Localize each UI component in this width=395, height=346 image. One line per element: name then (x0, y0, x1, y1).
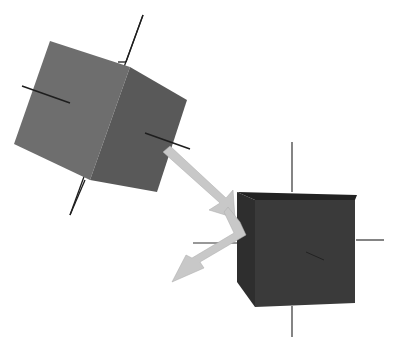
rotated-cube (14, 15, 190, 215)
arrow-first-segment (163, 146, 235, 218)
cubes-diagram (0, 0, 395, 346)
diagram-canvas (0, 0, 395, 346)
cube2-side-face (237, 192, 255, 307)
cube2-top-face (237, 192, 357, 200)
arrow-second-segment (172, 207, 246, 282)
cube2-front-face (255, 200, 355, 307)
aligned-cube (193, 142, 384, 337)
transform-arrow (163, 146, 246, 282)
